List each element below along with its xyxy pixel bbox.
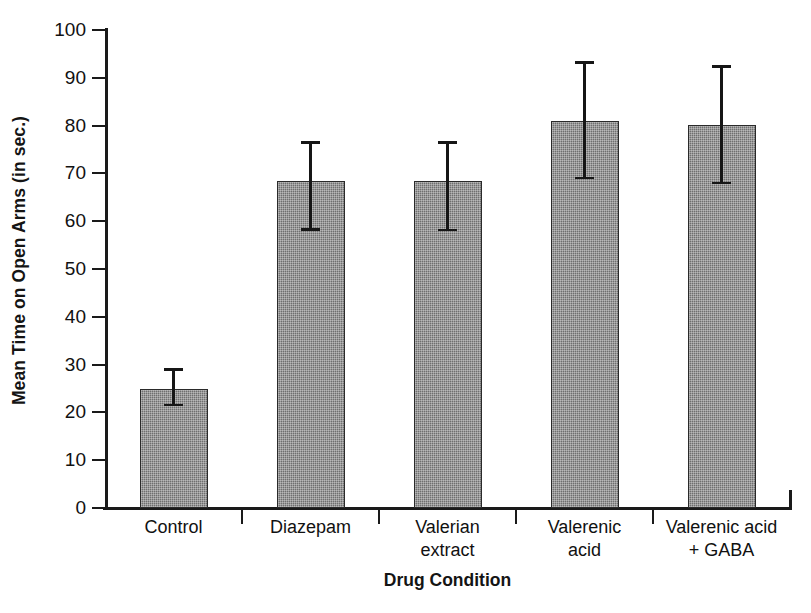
y-axis-tick-label: 40 [8,306,86,328]
y-axis-tick [92,29,105,31]
error-bar-cap-upper [301,141,320,143]
y-axis-tick [92,459,105,461]
y-axis-tick-label: 90 [8,67,86,89]
x-axis-category-label: Control [99,516,248,539]
error-bar-cap-lower [712,182,731,184]
y-axis-tick-label: 50 [8,258,86,280]
error-bar-cap-upper [438,141,457,143]
y-axis-tick-label: 100 [8,19,86,41]
y-axis-tick [92,172,105,174]
x-axis-category-label: Valerenic acid [510,516,659,562]
error-bar-cap-lower [438,229,457,231]
y-axis-tick [92,77,105,79]
error-bar-cap-upper [575,61,594,63]
y-axis-tick-label: 0 [8,497,86,519]
y-axis-tick-label: 60 [8,210,86,232]
bar [140,389,208,509]
y-axis-tick [92,364,105,366]
x-axis-title: Drug Condition [105,570,790,591]
y-axis-tick [92,316,105,318]
y-axis-tick-label: 10 [8,449,86,471]
error-bar-stem [720,66,722,183]
x-axis-right-cap [789,490,792,509]
error-bar-cap-upper [712,65,731,67]
y-axis-tick [92,268,105,270]
y-axis-line [105,28,108,510]
error-bar-cap-lower [575,177,594,179]
x-axis-category-label: Diazepam [236,516,385,539]
bar-chart-figure: Mean Time on Open Arms (in sec.) 0102030… [0,0,811,613]
y-axis-tick-label: 20 [8,401,86,423]
y-axis-tick-label: 70 [8,162,86,184]
error-bar-cap-lower [164,404,183,406]
error-bar-cap-upper [164,368,183,370]
y-axis-tick-label: 80 [8,115,86,137]
y-axis-tick [92,220,105,222]
error-bar-stem [583,63,585,179]
error-bar-cap-lower [301,228,320,230]
x-axis-category-label: Valerenic acid + GABA [647,516,796,562]
y-axis-tick [92,411,105,413]
error-bar-stem [172,369,174,405]
y-axis-tick [92,125,105,127]
y-axis-tick-label: 30 [8,354,86,376]
error-bar-stem [309,142,311,229]
x-axis-category-label: Valerian extract [373,516,522,562]
y-axis-tick [92,507,105,509]
error-bar-stem [446,142,448,229]
